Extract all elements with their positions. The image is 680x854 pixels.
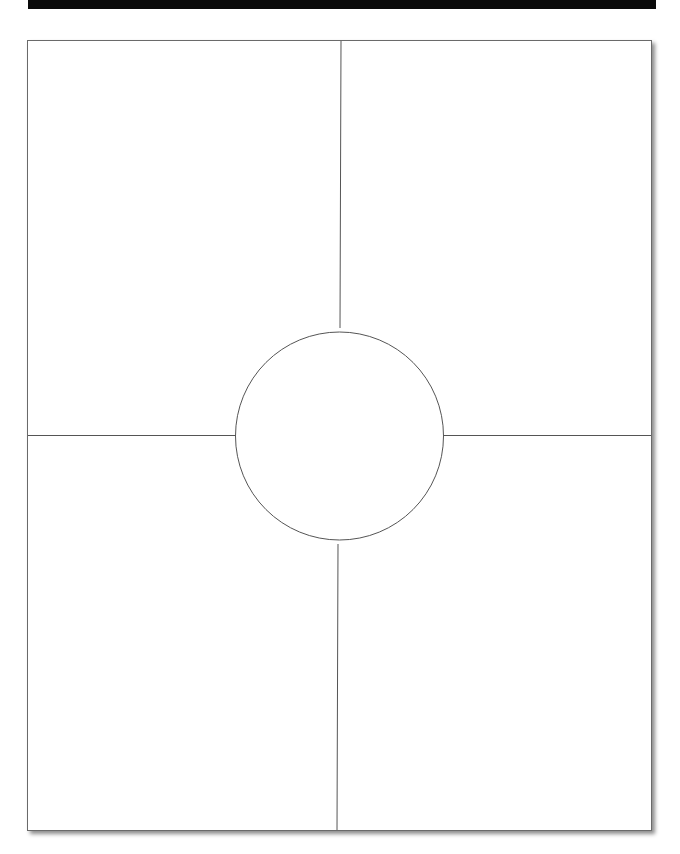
center-circle-area[interactable] <box>236 332 443 539</box>
title-banner <box>28 0 656 9</box>
